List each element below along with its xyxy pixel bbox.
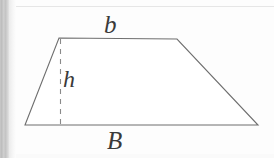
trapezoid-figure: b h B (0, 0, 274, 158)
label-height-h: h (63, 67, 75, 91)
label-minor-base-b: b (104, 12, 117, 37)
trapezoid-drawing (0, 0, 274, 158)
label-major-base-B: B (107, 128, 122, 153)
